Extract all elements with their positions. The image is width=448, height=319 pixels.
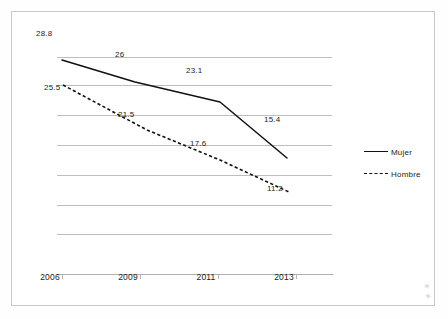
x-tick-label-2006: 2006 [30, 272, 70, 282]
x-tick-label-2011: 2011 [186, 272, 226, 282]
chart-figure: 28.8 26 23.1 15.4 25.5 21.5 17.6 11.2 20… [0, 0, 448, 319]
data-label-hombre-2011: 17.6 [190, 139, 206, 148]
legend-item-hombre[interactable]: Hombre [364, 168, 421, 180]
legend-swatch-dashed-icon [364, 169, 388, 179]
legend-swatch-solid-icon [364, 147, 388, 157]
data-label-mujer-2009: 26 [115, 50, 124, 59]
data-label-hombre-2013: 11.2 [267, 184, 283, 193]
data-label-hombre-2006: 25.5 [44, 83, 60, 92]
x-tick-label-2013: 2013 [264, 272, 304, 282]
chart-legend: Mujer Hombre [364, 142, 432, 186]
data-label-mujer-2013: 15.4 [264, 115, 280, 124]
data-label-hombre-2009: 21.5 [118, 110, 134, 119]
series-line-mujer [62, 60, 287, 158]
data-label-mujer-2011: 23.1 [186, 66, 202, 75]
legend-label-mujer: Mujer [391, 148, 412, 157]
legend-item-mujer[interactable]: Mujer [364, 146, 412, 158]
legend-label-hombre: Hombre [391, 170, 421, 179]
data-label-mujer-2006: 28.8 [36, 29, 52, 38]
series-line-hombre [63, 85, 289, 192]
x-tick-label-2009: 2009 [108, 272, 148, 282]
